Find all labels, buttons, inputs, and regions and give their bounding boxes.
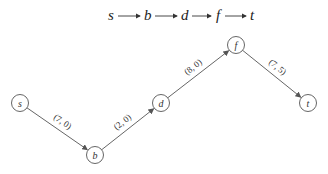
node-label: t: [307, 98, 310, 109]
graph-diagram: (7, 0)(2, 0)(8, 0)(7, 5) sbdft: [0, 0, 328, 174]
node-t: t: [300, 95, 317, 112]
edge-arrow: [243, 50, 301, 97]
node-label: b: [93, 150, 98, 161]
node-f: f: [228, 37, 245, 54]
node-s: s: [12, 95, 29, 112]
edge-s-b: (7, 0): [27, 108, 87, 150]
edge-label: (7, 0): [52, 112, 74, 131]
node-b: b: [87, 147, 104, 164]
edge-label: (7, 5): [267, 57, 288, 77]
edge-d-f: (8, 0): [168, 51, 229, 98]
edge-label: (2, 0): [112, 112, 134, 132]
node-d: d: [153, 95, 170, 112]
edge-b-d: (2, 0): [102, 109, 154, 150]
edge-f-t: (7, 5): [243, 50, 301, 97]
node-label: s: [18, 98, 22, 109]
edge-label: (8, 0): [182, 57, 204, 77]
